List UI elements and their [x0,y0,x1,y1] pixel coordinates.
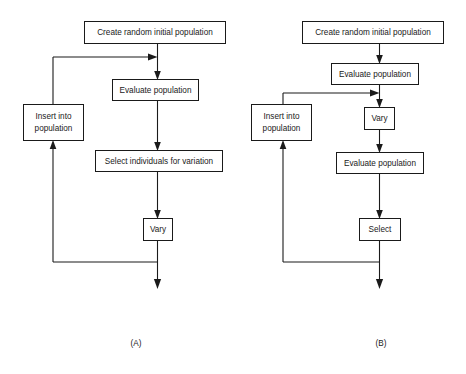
arrowhead-a-select-in [154,142,161,151]
arrowhead-a-spine-in [148,54,158,61]
node-b-vary-label: Vary [371,114,388,123]
node-b-insert-into-population[interactable] [252,105,312,141]
node-a-insert-into-population[interactable] [24,105,84,141]
panel-b: Create random initial population Evaluat… [252,22,444,349]
node-a-insert-label-line1: Insert into [36,112,72,121]
panel-a: Create random initial population Evaluat… [24,22,226,349]
arrowhead-a-vary-in [154,210,161,219]
figure-root: Create random initial population Evaluat… [0,0,466,374]
node-a-vary-label: Vary [150,225,167,234]
arrowhead-b-spine-in [370,90,380,97]
node-a-evaluate-label: Evaluate population [120,86,192,95]
caption-panel-b: (B) [376,339,387,348]
arrowhead-b-insert-in [280,140,287,149]
node-a-create-label: Create random initial population [97,28,213,37]
arrowhead-a-insert-in [50,140,57,149]
arrowhead-a-evaluate-in [154,71,161,80]
arrowhead-b-select-in [376,210,383,219]
caption-panel-a: (A) [131,339,142,348]
node-b-evaluate2-label: Evaluate population [344,159,416,168]
node-a-select-label: Select individuals for variation [105,157,214,166]
node-b-select-label: Select [369,225,392,234]
node-a-insert-label-line2: population [35,124,73,133]
node-b-insert-label-line2: population [263,124,301,133]
arrowhead-b-evaluate2-in [376,144,383,153]
arrowhead-b-evaluate1-in [376,55,383,64]
node-b-insert-label-line1: Insert into [264,112,300,121]
arrowhead-b-exit [376,279,383,289]
arrowhead-b-vary-in [376,99,383,108]
flowchart-canvas: Create random initial population Evaluat… [0,0,466,374]
node-b-create-label: Create random initial population [315,28,431,37]
node-b-evaluate1-label: Evaluate population [339,70,411,79]
arrowhead-a-exit [154,279,161,289]
